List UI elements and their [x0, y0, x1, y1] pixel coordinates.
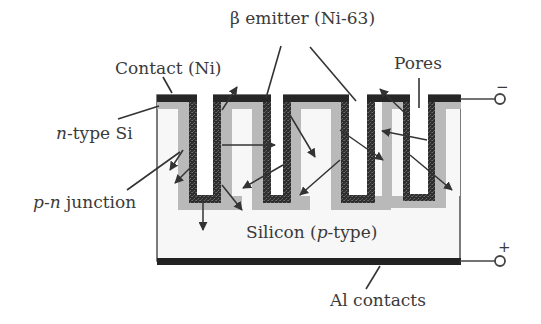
n-type-n: n — [56, 123, 67, 143]
n-type-suffix: -type Si — [67, 123, 133, 143]
pn-n: n — [50, 192, 61, 212]
pn-junction-label: p-n junction — [33, 192, 136, 212]
minus-sign: − — [496, 78, 509, 96]
beta-emitter-leader-line-2 — [310, 47, 356, 101]
contact-label: Contact (Ni) — [115, 58, 222, 78]
beta-emitter-leader-line-1 — [266, 46, 281, 98]
pores-label: Pores — [394, 53, 442, 73]
positive-terminal[interactable] — [495, 256, 505, 266]
betavoltaic-diagram: β emitter (Ni-63) Contact (Ni) Pores n-t… — [0, 0, 541, 324]
plus-sign: + — [498, 238, 511, 256]
al-contacts-label: Al contacts — [329, 290, 426, 310]
pn-suffix: junction — [61, 192, 137, 212]
pore-1 — [197, 93, 213, 195]
al-contact-bar — [157, 258, 461, 265]
n-type-si-label: n-type Si — [56, 123, 133, 143]
contact-leader-line — [163, 77, 172, 93]
al-contacts-leader-line — [366, 266, 380, 289]
silicon-p-type-label: Silicon (p-type) — [246, 222, 377, 242]
pore-2 — [271, 93, 283, 195]
silicon-prefix: Silicon ( — [246, 222, 317, 242]
n-type-leader-line — [118, 106, 159, 119]
beta-emitter-label: β emitter (Ni-63) — [230, 8, 375, 28]
pore-4 — [410, 93, 428, 194]
pore-3 — [349, 93, 367, 195]
silicon-p: p — [317, 222, 328, 242]
pn-p: p — [33, 192, 44, 212]
silicon-suffix: -type) — [328, 222, 378, 242]
